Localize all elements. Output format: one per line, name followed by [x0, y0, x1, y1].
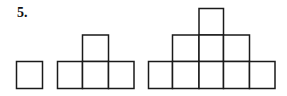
tile	[224, 62, 250, 89]
tile	[250, 62, 276, 89]
tile	[17, 62, 43, 89]
figure-3	[149, 9, 276, 89]
tile	[83, 35, 109, 62]
tile	[109, 62, 135, 89]
tile	[224, 35, 250, 62]
figure-2	[58, 35, 135, 89]
tile	[199, 35, 224, 62]
tile	[83, 62, 109, 89]
tile	[199, 9, 224, 36]
tile	[149, 62, 173, 89]
figure-1	[17, 62, 43, 89]
tile	[199, 62, 224, 89]
tile	[58, 62, 83, 89]
tile	[173, 62, 200, 89]
pyramid-figures-diagram	[0, 0, 287, 96]
tile	[173, 35, 200, 62]
